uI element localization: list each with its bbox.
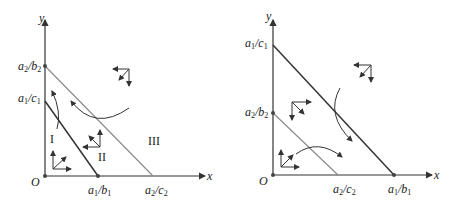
x-axis-label: x [206,169,213,183]
y-tick-a2b2: a2/b2 [18,59,41,74]
y-axis-label-right: y [265,9,272,23]
point-a1b1-right [392,173,396,177]
x-tick-a2c2: a2/c2 [145,183,168,198]
region-label-iii: III [148,134,160,148]
isocline-a1c1-a1b1-right [273,45,394,175]
right-panel: x y O a1/c1 a2/b2 a2/c2 a1/b1 [245,9,440,197]
vector-arrows-region-i [53,151,71,169]
y-tick-a1c1: a1/c1 [18,91,41,106]
origin-label: O [31,175,40,189]
y-tick-a2b2-right: a2/b2 [245,105,268,120]
origin-point [43,174,47,178]
x-tick-a1b1: a1/b1 [88,183,111,198]
trajectory-region-i [52,91,59,129]
origin-point-right [271,173,275,177]
trajectory-bottom-region [296,147,342,157]
region-label-i: I [50,132,54,146]
point-a1b1 [96,174,100,178]
x-tick-a2c2-right: a2/c2 [333,182,356,197]
phase-diagram: x y O a2/b2 a1/c1 a1/b1 a2/c2 I II III [0,0,449,206]
region-label-ii: II [98,150,106,164]
y-tick-a1c1-right: a1/c1 [245,36,268,51]
vector-arrows-bottom-region [281,150,299,167]
vector-arrows-middle-region [292,102,311,120]
left-panel: x y O a2/b2 a1/c1 a1/b1 a2/c2 I II III [18,11,213,198]
vector-arrows-region-iii [113,69,129,86]
x-axis-label-right: x [433,168,440,182]
y-axis-label: y [38,11,45,25]
x-tick-a1b1-right: a1/b1 [388,182,411,197]
point-a2b2-right [271,111,275,115]
point-a2b2 [43,64,47,68]
trajectory-region-iii-to-ii [71,101,129,118]
vector-arrows-region-ii [83,130,100,147]
origin-label-right: O [259,174,268,188]
vector-arrows-upper-region [354,65,371,82]
